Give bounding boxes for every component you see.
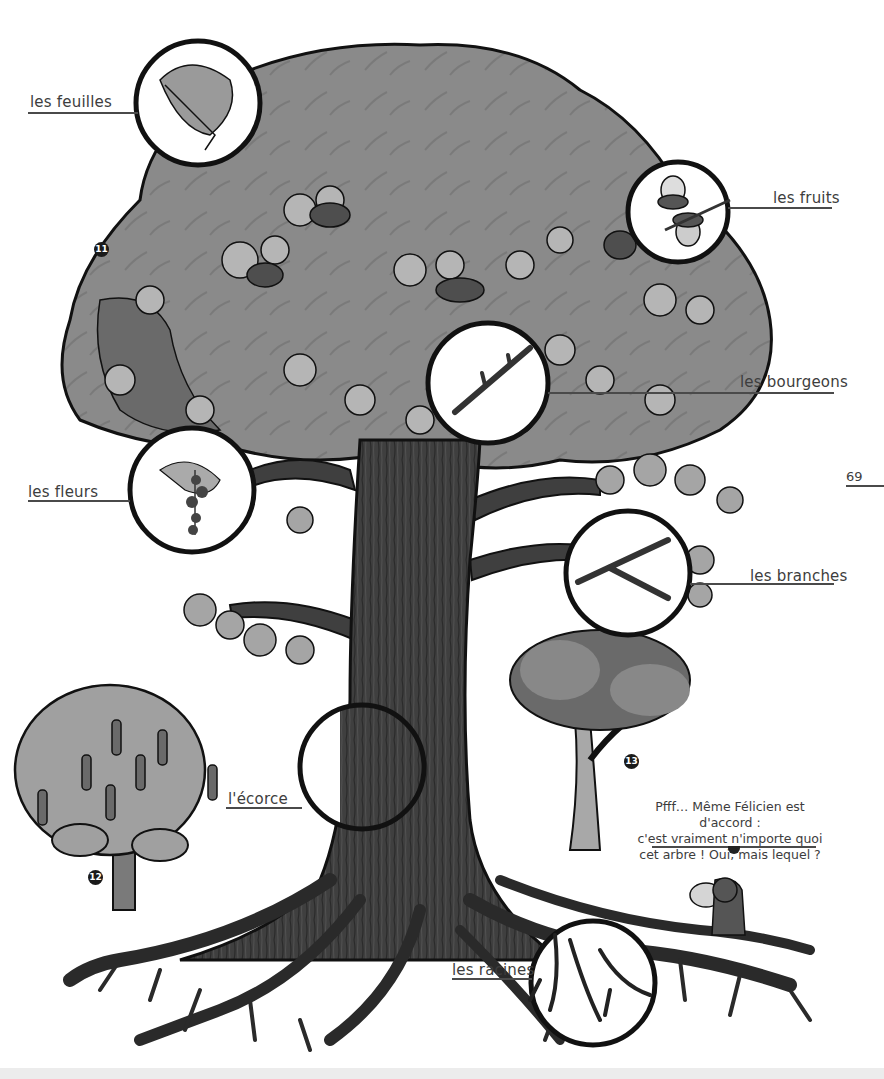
badge-13: 13 bbox=[624, 754, 639, 769]
badge-11: 11 bbox=[94, 242, 109, 257]
leader-line-roots bbox=[452, 978, 532, 980]
label-leaves: les feuilles bbox=[30, 93, 112, 111]
leader-line-bark bbox=[226, 807, 302, 809]
leader-line-buds bbox=[548, 392, 834, 394]
leader-line-flowers bbox=[28, 500, 130, 502]
label-roots: les racines bbox=[452, 961, 535, 979]
label-fruits: les fruits bbox=[773, 189, 840, 207]
badge-12: 12 bbox=[88, 870, 103, 885]
leader-line-leaves bbox=[28, 112, 138, 114]
label-bark: l'écorce bbox=[228, 790, 288, 808]
page-number-rule bbox=[846, 485, 884, 487]
page-number: 69 bbox=[846, 469, 863, 484]
label-flowers: les fleurs bbox=[28, 483, 98, 501]
tree-illustration bbox=[0, 0, 884, 1079]
speech-line-1: Pfff… Même Félicien est d'accord : bbox=[630, 799, 830, 831]
speech-caption: Pfff… Même Félicien est d'accord : c'est… bbox=[630, 799, 830, 863]
speech-line-2: c'est vraiment n'importe quoi bbox=[630, 831, 830, 847]
tree-12 bbox=[15, 685, 217, 910]
page-bottom-edge bbox=[0, 1068, 884, 1079]
illustrated-page: les feuilles les fruits les bourgeons le… bbox=[0, 0, 884, 1079]
leader-line-branches bbox=[690, 583, 834, 585]
label-buds: les bourgeons bbox=[740, 373, 848, 391]
leader-line-fruits bbox=[728, 207, 832, 209]
